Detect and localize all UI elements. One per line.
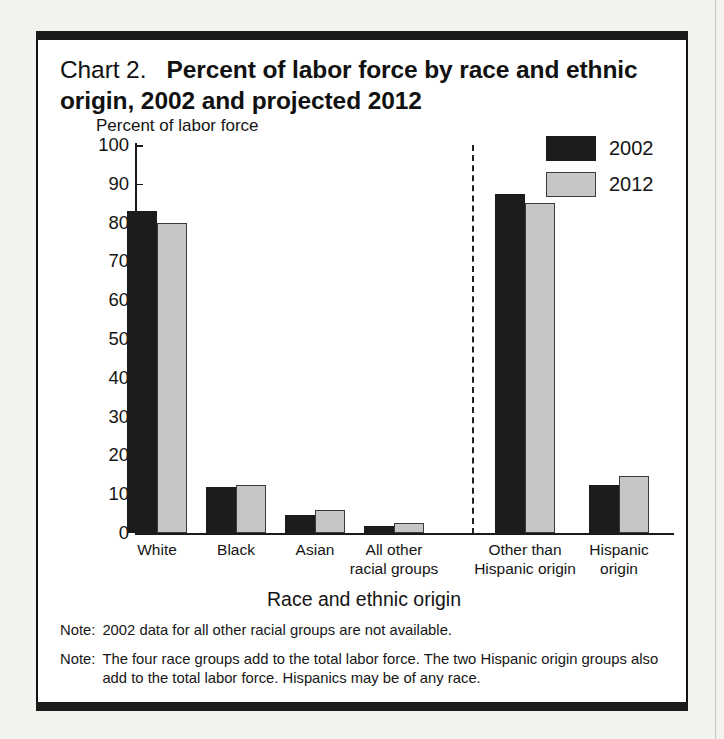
bar-2002-other-than-hispanic-origin	[495, 194, 525, 534]
legend-swatch-2012	[546, 172, 596, 197]
chart-note-tag: Note:	[60, 650, 95, 689]
y-axis-tick	[135, 184, 143, 186]
bar-2012-hispanic-origin	[619, 476, 649, 533]
y-axis-tick-label: 10	[83, 483, 129, 505]
chart-note-text: 2002 data for all other racial groups ar…	[102, 621, 666, 641]
legend-item-2012: 2012	[546, 172, 654, 197]
plot-area: Percent of labor force 01020304050607080…	[38, 32, 690, 710]
hispanic-group-divider	[472, 145, 474, 534]
y-axis-tick-label: 20	[83, 444, 129, 466]
chart-note: Note:2002 data for all other racial grou…	[60, 621, 666, 641]
bar-2012-asian	[315, 510, 345, 533]
x-axis-label-all-other-racial-groups: All other racial groups	[324, 540, 464, 578]
chart-legend: 20022012	[546, 136, 654, 208]
y-axis-tick-label: 50	[83, 328, 129, 350]
bar-2012-black	[236, 485, 266, 534]
legend-label-2012: 2012	[609, 173, 654, 196]
legend-label-2002: 2002	[609, 137, 654, 160]
bar-2012-other-than-hispanic-origin	[525, 203, 555, 533]
page-edge-line	[715, 0, 716, 739]
chart-note-text: The four race groups add to the total la…	[102, 650, 666, 689]
bar-2002-all-other-racial-groups	[364, 526, 394, 533]
bar-2002-hispanic-origin	[589, 485, 619, 534]
chart-figure-frame: Chart 2. Percent of labor force by race …	[36, 32, 688, 710]
legend-item-2002: 2002	[546, 136, 654, 161]
y-axis-tick	[135, 533, 143, 535]
y-axis-tick-label: 70	[83, 250, 129, 272]
chart-note-tag: Note:	[60, 621, 95, 641]
chart-notes: Note:2002 data for all other racial grou…	[60, 621, 666, 698]
x-axis-label-hispanic-origin: Hispanic origin	[549, 540, 689, 578]
x-axis-line	[135, 533, 674, 535]
y-axis-tick-label: 60	[83, 289, 129, 311]
chart-note: Note:The four race groups add to the tot…	[60, 650, 666, 689]
bar-2012-all-other-racial-groups	[394, 523, 424, 533]
bar-2012-white	[157, 223, 187, 533]
bar-2002-asian	[285, 515, 315, 533]
page-background: Chart 2. Percent of labor force by race …	[0, 0, 724, 739]
bar-2002-black	[206, 487, 236, 533]
y-axis-tick-label: 30	[83, 406, 129, 428]
y-axis-tick-label: 90	[83, 173, 129, 195]
y-axis-tick-label: 40	[83, 367, 129, 389]
x-axis-title: Race and ethnic origin	[38, 588, 690, 611]
y-axis-tick-label: 100	[83, 134, 129, 156]
bar-2002-white	[127, 211, 157, 533]
y-axis-tick	[135, 145, 143, 147]
legend-swatch-2002	[546, 136, 596, 161]
y-axis-title: Percent of labor force	[96, 116, 259, 136]
y-axis-tick-label: 80	[83, 212, 129, 234]
